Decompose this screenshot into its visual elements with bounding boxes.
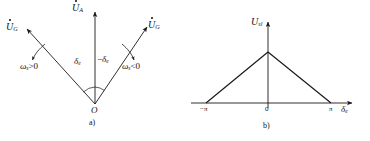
panel-b-waveform xyxy=(191,22,352,108)
label-origin: O xyxy=(91,106,98,115)
caption-panel-a: a) xyxy=(89,119,95,127)
label-terminal-voltage: UA xyxy=(72,3,83,14)
label-slip-negative: ωs<0 xyxy=(122,62,140,72)
caption-panel-b: b) xyxy=(263,122,270,130)
label-y-axis-slip-voltage: Usl xyxy=(251,17,262,28)
label-generator-voltage-right: UG xyxy=(148,20,160,31)
waveform-trace xyxy=(206,52,331,103)
tick-label-pi: π xyxy=(329,106,333,113)
tick-label-zero: 0 xyxy=(265,106,269,113)
label-delta-negative: −δe xyxy=(97,55,109,65)
angle-arc-delta-positive xyxy=(84,87,96,92)
angle-arc-delta-negative xyxy=(95,87,105,91)
label-generator-voltage-left: UG xyxy=(6,22,18,33)
panel-a-phasor-diagram xyxy=(27,12,147,104)
label-x-axis-delta: δe xyxy=(341,105,348,115)
rotation-arrow-right xyxy=(122,44,134,60)
label-delta-positive: δe xyxy=(74,57,81,67)
label-slip-positive: ωs>0 xyxy=(20,62,38,72)
tick-label-neg-pi: −π xyxy=(200,106,207,113)
figure-canvas xyxy=(0,0,370,141)
